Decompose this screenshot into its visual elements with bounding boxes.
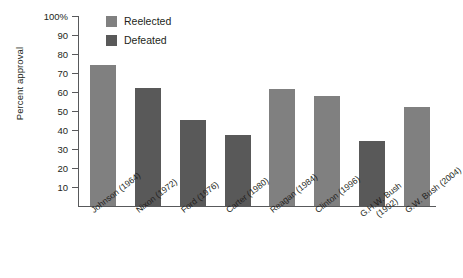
y-axis-tick-label: 90 bbox=[24, 31, 68, 40]
legend-swatch-icon bbox=[106, 35, 117, 46]
y-axis-tick-label: 80 bbox=[24, 50, 68, 59]
y-axis-tick-label: 60 bbox=[24, 88, 68, 97]
legend-item-label: Defeated bbox=[124, 35, 167, 46]
y-axis-tick-label: 20 bbox=[24, 164, 68, 173]
x-axis-tick-labels: Johnson (1964)Nixon (1972)Ford (1976)Car… bbox=[78, 207, 447, 278]
y-axis-tick-label: 50 bbox=[24, 107, 68, 116]
legend-item: Reelected bbox=[106, 14, 171, 29]
legend-item-label: Reelected bbox=[124, 16, 171, 27]
y-axis-tick-label: 100% bbox=[24, 12, 68, 21]
y-axis-tick-label: 30 bbox=[24, 145, 68, 154]
y-axis-tick-label: 10 bbox=[24, 183, 68, 192]
legend-item: Defeated bbox=[106, 33, 171, 48]
y-axis-title: Percent approval bbox=[14, 24, 25, 144]
bar bbox=[90, 65, 116, 206]
legend-swatch-icon bbox=[106, 16, 117, 27]
legend: ReelectedDefeated bbox=[106, 14, 171, 52]
y-axis-tick-label: 70 bbox=[24, 69, 68, 78]
y-axis-tick-label: 40 bbox=[24, 126, 68, 135]
